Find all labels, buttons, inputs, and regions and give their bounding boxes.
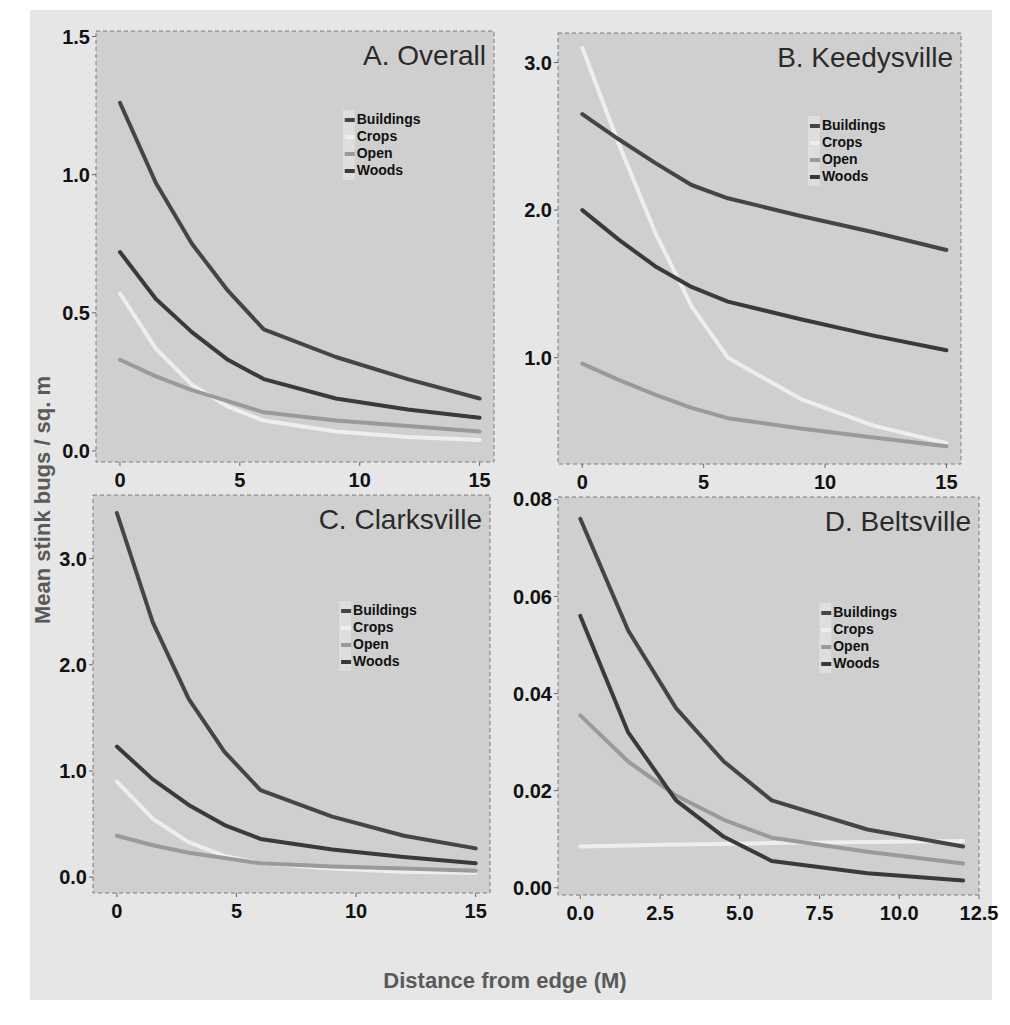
y-tick-label: 3.0 (524, 52, 552, 74)
y-tick-label: 0.08 (513, 488, 552, 510)
panel-d: 0.000.020.040.060.080.02.55.07.510.012.5… (513, 488, 998, 924)
x-tick-label: 10 (814, 471, 836, 493)
legend-label-buildings: Buildings (357, 111, 421, 127)
x-tick-label: 12.5 (960, 902, 999, 924)
x-tick-label: 15 (468, 469, 490, 491)
x-tick-label: 2.5 (646, 902, 674, 924)
y-tick-label: 1.0 (62, 164, 90, 186)
panel-title: D. Beltsville (825, 506, 971, 537)
y-tick-label: 0.0 (59, 866, 87, 888)
x-axis-title: Distance from edge (M) (383, 968, 626, 993)
legend-label-open: Open (833, 638, 869, 654)
x-tick-label: 0 (114, 469, 125, 491)
y-axis-title: Mean stink bugs / sq. m (30, 376, 55, 624)
y-tick-label: 0.02 (513, 780, 552, 802)
legend-label-crops: Crops (357, 128, 398, 144)
x-tick-label: 7.5 (806, 902, 834, 924)
y-tick-label: 3.0 (59, 548, 87, 570)
panel-title: B. Keedysville (777, 42, 953, 73)
legend-label-crops: Crops (353, 619, 394, 635)
legend-label-open: Open (357, 145, 393, 161)
legend-label-woods: Woods (353, 653, 400, 669)
panel-a: 0.00.51.01.5051015A. OverallBuildingsCro… (62, 26, 494, 491)
x-tick-label: 5 (698, 471, 709, 493)
x-tick-label: 15 (465, 900, 487, 922)
y-tick-label: 1.5 (62, 26, 90, 48)
legend-label-buildings: Buildings (353, 602, 417, 618)
y-tick-label: 0.06 (513, 586, 552, 608)
figure: Mean stink bugs / sq. m Distance from ed… (0, 0, 1010, 1025)
legend-label-woods: Woods (833, 655, 880, 671)
x-tick-label: 5 (231, 900, 242, 922)
panel-title: A. Overall (363, 40, 486, 71)
x-tick-label: 15 (935, 471, 957, 493)
legend-label-buildings: Buildings (833, 604, 897, 620)
plot-area (558, 33, 961, 464)
y-tick-label: 0.5 (62, 302, 90, 324)
legend-label-open: Open (353, 636, 389, 652)
y-tick-label: 1.0 (524, 347, 552, 369)
legend-label-woods: Woods (822, 168, 869, 184)
x-tick-label: 0 (111, 900, 122, 922)
x-tick-label: 10.0 (880, 902, 919, 924)
y-tick-label: 0.0 (62, 440, 90, 462)
plot-area (96, 31, 494, 462)
legend-label-crops: Crops (822, 134, 863, 150)
plot-area (93, 495, 490, 893)
legend-label-open: Open (822, 151, 858, 167)
x-tick-label: 0.0 (566, 902, 594, 924)
y-tick-label: 0.00 (513, 877, 552, 899)
panel-b: 1.02.03.0051015B. KeedysvilleBuildingsCr… (524, 33, 961, 493)
x-tick-label: 5.0 (726, 902, 754, 924)
panel-title: C. Clarksville (319, 504, 482, 535)
y-tick-label: 0.04 (513, 683, 553, 705)
x-tick-label: 10 (349, 469, 371, 491)
panel-c: 0.01.02.03.0051015C. ClarksvilleBuilding… (59, 495, 490, 922)
y-tick-label: 1.0 (59, 760, 87, 782)
legend-label-crops: Crops (833, 621, 874, 637)
x-tick-label: 5 (234, 469, 245, 491)
y-tick-label: 2.0 (524, 199, 552, 221)
x-tick-label: 0 (577, 471, 588, 493)
legend-label-woods: Woods (357, 162, 404, 178)
y-tick-label: 2.0 (59, 654, 87, 676)
x-tick-label: 10 (345, 900, 367, 922)
legend-label-buildings: Buildings (822, 117, 886, 133)
